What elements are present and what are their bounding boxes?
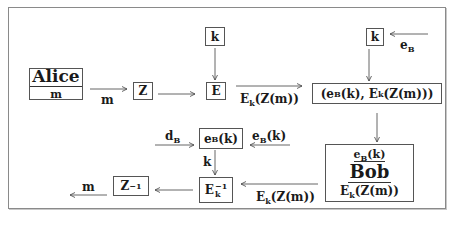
bob-name: Bob xyxy=(348,163,392,183)
label-sub: B xyxy=(173,135,180,145)
alice-node: Alice m xyxy=(29,68,83,100)
label-main: E xyxy=(240,92,249,106)
e-inverse-node: E−1k xyxy=(199,177,233,203)
e-label: E xyxy=(211,84,220,98)
edge-label-db: dB xyxy=(165,130,180,142)
k-label: k xyxy=(211,30,219,44)
bob-node: eB(k) Bob Ek(Z(m)) xyxy=(325,144,414,202)
label-rest: (Z(m)) xyxy=(255,92,299,106)
edge-label-k-down: k xyxy=(203,156,211,168)
label-main: E xyxy=(256,190,265,204)
edge-label-ebk-ext: eB(k) xyxy=(252,130,286,142)
z-node: Z xyxy=(133,82,153,100)
ebk-rest: (k) xyxy=(218,132,238,146)
label-main: e xyxy=(400,38,408,52)
alice-message: m xyxy=(50,89,62,100)
edge-label-ek-zm-top: Ek(Z(m)) xyxy=(240,93,299,105)
label-rest: (Z(m)) xyxy=(271,190,315,204)
label-sub: B xyxy=(408,44,415,54)
eb-k-node: eB(k) xyxy=(199,128,243,149)
label-rest: (k) xyxy=(266,129,286,143)
e-encrypt-node: E xyxy=(206,82,226,100)
bob-top-main: e xyxy=(354,148,361,161)
pair-part2: (k), E xyxy=(341,87,378,101)
k-key-node: k xyxy=(205,27,225,46)
edge-label-ek-zm-bottom: Ek(Z(m)) xyxy=(256,191,315,203)
bob-bottom: Ek(Z(m)) xyxy=(340,185,399,197)
alice-name: Alice xyxy=(30,68,81,87)
label-main: e xyxy=(252,129,260,143)
pair-part3: (Z(m))) xyxy=(383,87,433,101)
einv-sub: k xyxy=(215,190,227,198)
edge-label-m-alice: m xyxy=(101,94,114,106)
k-right-label: k xyxy=(371,30,379,44)
bob-bottom-rest: (Z(m)) xyxy=(355,184,399,198)
zinv-main: Z xyxy=(120,179,129,193)
ebk-main: e xyxy=(204,132,212,146)
einv-main: E xyxy=(205,183,214,197)
ciphertext-pair-node: (eB(k), Ek(Z(m))) xyxy=(312,83,442,104)
pair-part1: (e xyxy=(321,87,334,101)
bob-top-rest: (k) xyxy=(367,148,385,161)
bob-bottom-main: E xyxy=(340,184,349,198)
edge-label-eb: eB xyxy=(400,39,414,51)
k-key-node-right: k xyxy=(366,28,384,46)
z-label: Z xyxy=(139,84,148,98)
z-inverse-node: Z−1 xyxy=(113,176,149,196)
edge-label-m-output: m xyxy=(82,181,95,193)
